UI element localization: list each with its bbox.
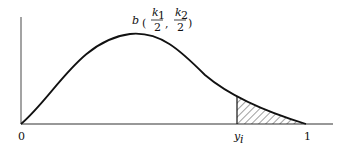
left-paren: (: [142, 17, 146, 30]
yi-sub: i: [240, 133, 244, 146]
beta-density-diagram: b ( k 1 2 , k 2 2 ) 0 y i 1: [0, 0, 352, 153]
func-name: b: [132, 14, 139, 27]
k2-denom: 2: [177, 21, 184, 34]
end-label: 1: [304, 130, 311, 143]
origin-label: 0: [18, 130, 25, 143]
curve-label: b ( k 1 2 , k 2 2 ): [132, 6, 192, 34]
k1-denom: 2: [154, 21, 161, 34]
right-paren: ): [188, 17, 192, 30]
comma: ,: [165, 17, 169, 30]
